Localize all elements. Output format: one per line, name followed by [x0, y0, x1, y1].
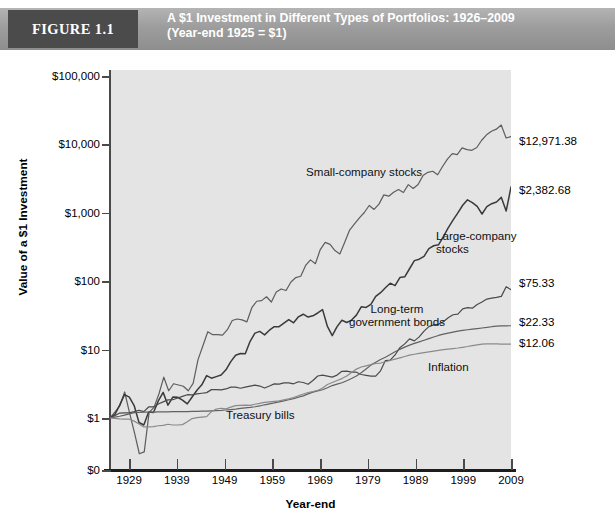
- figure-number-label: FIGURE 1.1: [32, 21, 114, 38]
- lt-bonds-line2: government bonds: [321, 315, 473, 328]
- series-annotation-treasury-bills: Treasury bills: [226, 408, 295, 421]
- large-company-line2: stocks: [436, 242, 517, 255]
- end-value-treasury-bills: $22.33: [519, 315, 554, 328]
- chart-container: $100,000$10,000$1,000$100$10$1$0 1929193…: [0, 50, 615, 529]
- series-annotation-large-company-stocks: Large-company stocks: [436, 229, 517, 255]
- figure-number-badge: FIGURE 1.1: [8, 10, 138, 48]
- series-annotation-small-company-stocks: Small-company stocks: [289, 165, 439, 178]
- large-company-line1: Large-company: [436, 229, 517, 242]
- series-line-inflation: [110, 344, 511, 427]
- series-lines: [0, 50, 615, 529]
- end-value-long-term-government-bonds: $75.33: [519, 276, 554, 289]
- figure-title-line-1: A $1 Investment in Different Types of Po…: [167, 11, 597, 26]
- figure-title: A $1 Investment in Different Types of Po…: [167, 11, 597, 41]
- end-value-inflation: $12.06: [519, 336, 554, 349]
- end-value-large-company-stocks: $2,382.68: [519, 183, 571, 196]
- series-annotation-inflation: Inflation: [428, 360, 469, 373]
- series-annotation-long-term-government-bonds: Long-term government bonds: [321, 302, 473, 328]
- figure-title-line-2: (Year-end 1925 = $1): [167, 26, 597, 41]
- lt-bonds-line1: Long-term: [321, 302, 473, 315]
- end-value-small-company-stocks: $12,971.38: [519, 134, 577, 147]
